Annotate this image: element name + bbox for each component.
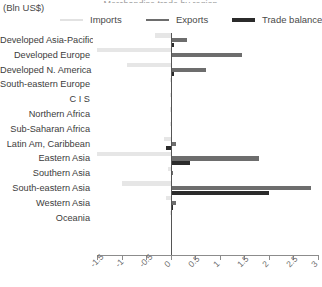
axis-tick-label: 3 — [309, 259, 319, 269]
legend-swatch-trade-balance-icon — [232, 18, 255, 21]
units-caption: (Bln US$) — [3, 2, 44, 13]
legend-swatch-imports-icon — [60, 19, 83, 21]
axis-tick — [269, 255, 270, 260]
legend-item-exports: Exports — [146, 15, 232, 25]
category-label: South-eastern Asia — [0, 181, 93, 196]
plot-area — [97, 33, 318, 255]
bar-row — [97, 77, 318, 92]
legend-label-imports: Imports — [90, 15, 122, 25]
category-label: South-eastern Europe — [0, 77, 93, 92]
zero-baseline — [171, 33, 172, 260]
category-label: Eastern Asia — [0, 151, 93, 166]
category-label: Sub-Saharan Africa — [0, 122, 93, 137]
category-axis-labels: Developed Asia-PacificDeveloped EuropeDe… — [0, 33, 93, 255]
category-label: C I S — [0, 92, 93, 107]
bar-imports — [127, 63, 170, 67]
category-label: Developed N. America — [0, 63, 93, 78]
category-label: Northern Africa — [0, 107, 93, 122]
bar-row — [97, 92, 318, 107]
bar-row — [97, 137, 318, 152]
bar-row — [97, 107, 318, 122]
axis-tick-label: -1 — [113, 257, 125, 269]
bar-imports — [155, 33, 171, 37]
category-label: Developed Asia-Pacific — [0, 33, 93, 48]
category-label: Latin Am, Caribbean — [0, 137, 93, 152]
axis-tick — [171, 255, 172, 260]
bar-imports — [97, 48, 171, 52]
axis-tick — [220, 255, 221, 260]
legend-item-trade-balance: Trade balance — [232, 15, 318, 25]
bar-row — [97, 122, 318, 137]
category-label: Developed Europe — [0, 48, 93, 63]
axis-tick-label: 2 — [260, 259, 270, 269]
bar-row — [97, 181, 318, 196]
bar-exports — [171, 68, 206, 72]
bar-exports — [171, 53, 242, 57]
bar-row — [97, 48, 318, 63]
legend-label-trade-balance: Trade balance — [262, 15, 322, 25]
legend-item-imports: Imports — [60, 15, 146, 25]
bar-imports — [122, 181, 171, 185]
legend-label-exports: Exports — [176, 15, 208, 25]
bar-balance — [171, 161, 191, 165]
axis-tick-label: 0 — [162, 259, 172, 269]
bar-row — [97, 166, 318, 181]
bar-row — [97, 63, 318, 78]
bar-row — [97, 211, 318, 226]
bar-balance — [171, 191, 269, 195]
axis-tick-label: 1 — [211, 259, 221, 269]
chart-legend: Imports Exports Trade balance — [60, 13, 318, 27]
bar-row — [97, 33, 318, 48]
bar-row — [97, 196, 318, 211]
category-label: Southern Asia — [0, 166, 93, 181]
category-label: Oceania — [0, 211, 93, 226]
legend-swatch-exports-icon — [146, 19, 169, 22]
axis-tick — [318, 255, 319, 260]
clipped-chart-title: Merchandise trade by region — [0, 0, 321, 3]
bar-imports — [97, 152, 171, 156]
category-label: Western Asia — [0, 196, 93, 211]
value-axis-line — [97, 255, 318, 256]
bar-row — [97, 151, 318, 166]
